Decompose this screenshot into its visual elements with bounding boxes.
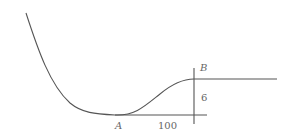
label-point-a: A <box>115 121 122 131</box>
label-point-b: B <box>200 63 207 73</box>
label-height: 6 <box>201 93 207 103</box>
label-length: 100 <box>158 121 177 131</box>
diagram-canvas: A 100 B 6 <box>0 0 293 140</box>
curve-diagram <box>0 0 293 140</box>
profile-curve <box>26 13 194 115</box>
